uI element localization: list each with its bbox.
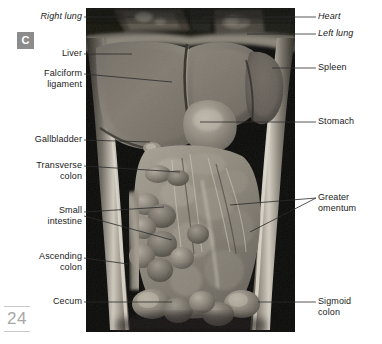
folio-rule-bottom <box>4 331 30 332</box>
label-falciform-ligament: Falciform ligament <box>8 68 82 90</box>
label-transverse-colon: Transverse colon <box>4 160 82 182</box>
label-gallbladder: Gallbladder <box>4 134 82 145</box>
label-heart: Heart <box>318 11 341 22</box>
page-folio: 24 <box>4 306 30 332</box>
page-number: 24 <box>4 307 30 331</box>
label-right-lung: Right lung <box>8 11 82 22</box>
anatomy-figure: Right lung Liver Falciform ligament Gall… <box>0 0 382 344</box>
panel-letter-badge: C <box>17 32 34 49</box>
label-ascending-colon: Ascending colon <box>4 251 82 273</box>
cadaver-photograph <box>86 8 295 332</box>
label-left-lung: Left lung <box>318 28 353 39</box>
label-stomach: Stomach <box>318 116 354 127</box>
label-small-intestine: Small intestine <box>4 205 82 227</box>
label-liver: Liver <box>8 48 82 59</box>
label-greater-omentum: Greater omentum <box>318 192 356 214</box>
label-sigmoid-colon: Sigmoid colon <box>318 296 351 318</box>
label-spleen: Spleen <box>318 62 347 73</box>
